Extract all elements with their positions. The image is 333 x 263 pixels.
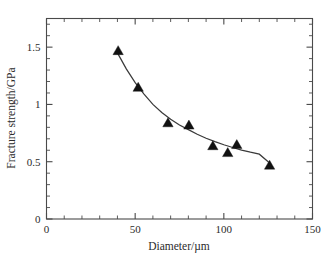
y-tick-label: 1 (35, 98, 41, 110)
y-axis-title: Fracture strength/GPa (5, 67, 18, 168)
data-point-marker (133, 82, 143, 91)
fracture-strength-scatter-chart: 050100150 00.511.5 Diameter/µm Fracture … (0, 0, 333, 263)
data-point-marker (113, 46, 123, 55)
x-tick-label: 150 (304, 223, 321, 235)
x-tick-label: 0 (44, 223, 50, 235)
y-tick-label: 1.5 (27, 41, 41, 53)
x-axis-title: Diameter/µm (148, 240, 210, 253)
data-point-marker (264, 160, 274, 169)
plot-frame (47, 19, 313, 220)
data-point-markers (113, 46, 275, 170)
y-axis-ticks (47, 24, 313, 219)
data-point-marker (223, 148, 233, 157)
y-tick-label: 0.5 (27, 156, 41, 168)
data-point-marker (232, 140, 242, 149)
x-axis-ticks (47, 19, 313, 220)
y-tick-label: 0 (35, 213, 41, 225)
x-tick-label: 100 (216, 223, 233, 235)
data-point-marker (163, 118, 173, 127)
x-axis-tick-labels: 050100150 (44, 223, 322, 235)
y-axis-tick-labels: 00.511.5 (27, 41, 41, 225)
x-tick-label: 50 (130, 223, 142, 235)
data-point-marker (184, 120, 194, 129)
chart-figure: 050100150 00.511.5 Diameter/µm Fracture … (0, 0, 333, 263)
fit-curve (117, 53, 270, 163)
